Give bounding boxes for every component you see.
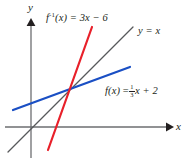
inverse-fn-arg: (x) [55, 12, 67, 23]
y-axis-label: y [28, 2, 33, 13]
inverse-function-equation-label: f-1(x) = 3x − 6 [46, 13, 108, 24]
identity-line-label: y = x [138, 26, 160, 37]
inverse-fn-expression: = 3x − 6 [70, 12, 108, 23]
x-axis-label: x [176, 121, 181, 132]
function-equation-label: f(x) =13x + 2 [105, 84, 158, 98]
function-inverse-graph-figure: y x f-1(x) = 3x − 6 y = x f(x) =13x + 2 [0, 0, 187, 163]
y-axis-arrow-icon [27, 18, 36, 26]
fn-tail: x + 2 [135, 85, 158, 96]
fn-equals-sign: = [123, 85, 129, 96]
function-line-f-inverse [48, 27, 92, 150]
x-axis-arrow-icon [166, 123, 174, 132]
fraction-denominator: 3 [129, 91, 134, 99]
one-third-fraction: 13 [129, 84, 134, 98]
y-axis [27, 18, 36, 158]
fn-arg: (x) [108, 85, 120, 96]
